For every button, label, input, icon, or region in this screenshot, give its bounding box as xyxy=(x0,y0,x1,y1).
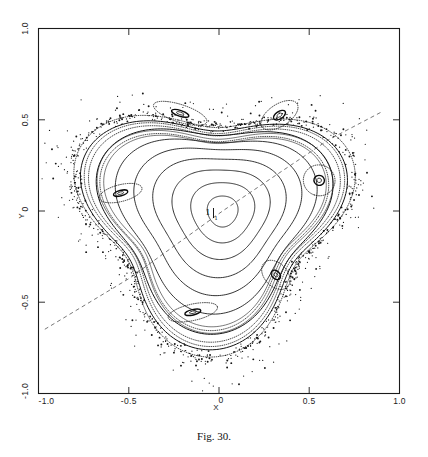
chaotic-point xyxy=(250,112,252,114)
chaotic-point xyxy=(130,306,131,307)
chaotic-point xyxy=(145,313,146,314)
chaotic-point xyxy=(147,111,148,112)
chaotic-point xyxy=(312,244,313,245)
chaotic-point xyxy=(118,119,120,121)
chaotic-point xyxy=(340,134,342,136)
chaotic-point xyxy=(152,114,153,115)
chaotic-point xyxy=(315,110,317,112)
chaotic-point xyxy=(79,194,80,195)
chaotic-point xyxy=(111,283,112,284)
chaotic-point xyxy=(250,345,251,346)
chaotic-point xyxy=(51,148,53,150)
chaotic-point xyxy=(299,308,300,309)
chaotic-point xyxy=(125,319,126,320)
chaotic-point xyxy=(152,119,153,120)
chaotic-point xyxy=(299,266,300,267)
chaotic-point xyxy=(328,258,329,259)
chaotic-point xyxy=(209,354,211,356)
chaotic-point xyxy=(79,201,80,202)
chaotic-point xyxy=(295,267,297,269)
chaotic-point xyxy=(169,119,170,120)
chaotic-point xyxy=(339,224,340,225)
chaotic-point xyxy=(79,173,80,174)
chaotic-point xyxy=(144,314,145,315)
chaotic-point xyxy=(166,338,167,339)
chaotic-point xyxy=(129,118,130,119)
chaotic-point xyxy=(286,288,287,289)
chaotic-point xyxy=(106,234,107,235)
invariant-torus xyxy=(191,183,255,243)
x-tick-label-0: 0 xyxy=(218,395,223,405)
chaotic-point xyxy=(352,188,353,189)
chaotic-point xyxy=(265,334,266,335)
chaotic-point xyxy=(297,277,298,278)
chaotic-point xyxy=(61,163,62,164)
chaotic-point xyxy=(256,120,257,121)
chaotic-point xyxy=(352,154,354,156)
chaotic-point xyxy=(313,248,314,249)
chaotic-point xyxy=(99,133,100,134)
chaotic-point xyxy=(262,360,263,361)
chaotic-point xyxy=(124,264,125,265)
chaotic-point xyxy=(355,164,356,165)
chaotic-point xyxy=(132,94,133,95)
chaotic-point xyxy=(61,197,62,198)
chaotic-point xyxy=(55,163,57,165)
chaotic-point xyxy=(342,228,343,229)
chaotic-point xyxy=(334,133,335,134)
invariant-torus xyxy=(96,129,333,334)
chaotic-point xyxy=(195,364,197,366)
chaotic-point xyxy=(167,343,169,345)
chaotic-point xyxy=(143,104,144,105)
chaotic-point xyxy=(287,123,288,124)
chaotic-point xyxy=(252,349,253,350)
chaotic-point xyxy=(110,250,111,251)
chaotic-point xyxy=(187,356,188,357)
fixed-point-annotation: 1 1 xyxy=(206,207,218,221)
chaotic-point xyxy=(351,209,352,210)
chaotic-point xyxy=(116,107,118,109)
chaotic-point xyxy=(323,240,324,241)
chaotic-point xyxy=(267,326,268,327)
chaotic-point xyxy=(272,319,273,320)
chaotic-point xyxy=(131,272,132,273)
chaotic-point xyxy=(286,114,287,115)
chaotic-point xyxy=(352,136,353,137)
chaotic-point xyxy=(205,363,206,364)
chaotic-point xyxy=(58,166,59,167)
chaotic-point xyxy=(71,156,72,157)
chaotic-point xyxy=(274,307,276,309)
x-tick-label-1: 1.0 xyxy=(393,396,406,406)
chaotic-point xyxy=(80,99,81,100)
fixed-point-sublabel: 1 xyxy=(215,215,218,221)
chaotic-point xyxy=(313,117,314,118)
chaotic-point xyxy=(240,343,241,344)
chaotic-point xyxy=(275,316,276,317)
chaotic-point xyxy=(202,390,203,391)
chaotic-point xyxy=(277,317,278,318)
chaotic-point xyxy=(148,105,150,107)
chaotic-point xyxy=(70,162,71,163)
chaotic-point xyxy=(280,293,281,294)
chaotic-point xyxy=(316,117,317,118)
chaotic-point xyxy=(300,297,301,298)
chaotic-point xyxy=(155,114,156,115)
chaotic-point xyxy=(207,361,209,363)
chaotic-point xyxy=(311,252,312,253)
chaotic-point xyxy=(285,295,287,297)
chaotic-point xyxy=(358,217,359,218)
chaotic-point xyxy=(140,311,141,312)
chaotic-point xyxy=(221,112,223,114)
chaotic-point xyxy=(165,336,166,337)
y-tick-label-0: 0 xyxy=(20,206,30,211)
chaotic-point xyxy=(66,157,67,158)
chaotic-point xyxy=(351,205,352,206)
chaotic-point xyxy=(287,300,288,301)
chaotic-point xyxy=(210,360,211,361)
chaotic-point xyxy=(122,254,123,255)
chaotic-point xyxy=(280,286,281,287)
chaotic-point xyxy=(298,122,300,124)
chaotic-point xyxy=(250,121,251,122)
chaotic-point xyxy=(268,337,270,339)
chaotic-point xyxy=(258,101,260,103)
